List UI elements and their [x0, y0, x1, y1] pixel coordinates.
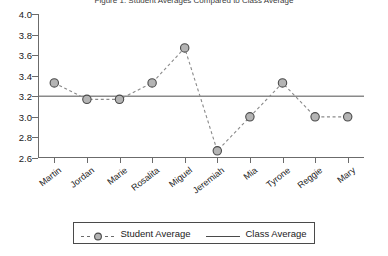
data-point-marker — [148, 79, 156, 87]
data-point-marker — [344, 113, 352, 121]
data-point-marker — [50, 79, 58, 87]
student-average-line — [54, 48, 347, 151]
data-point-marker — [311, 113, 319, 121]
legend-entry-student-average: Student Average — [81, 228, 190, 239]
legend-entry-class-average: Class Average — [206, 228, 306, 239]
data-point-marker — [83, 95, 91, 103]
chart-container: Figure 1. Student Averages Compared to C… — [0, 0, 388, 256]
data-point-marker — [181, 44, 189, 52]
legend-key-solid-line-icon — [206, 228, 240, 239]
legend-key-dashed-marker-icon — [81, 228, 115, 239]
data-layer — [0, 0, 388, 256]
data-point-marker — [115, 95, 123, 103]
data-point-marker — [213, 147, 221, 155]
legend-label-class-average: Class Average — [245, 228, 306, 239]
data-point-marker — [246, 113, 254, 121]
data-point-marker — [278, 79, 286, 87]
chart-legend: Student Average Class Average — [73, 222, 315, 244]
legend-label-student-average: Student Average — [120, 228, 190, 239]
